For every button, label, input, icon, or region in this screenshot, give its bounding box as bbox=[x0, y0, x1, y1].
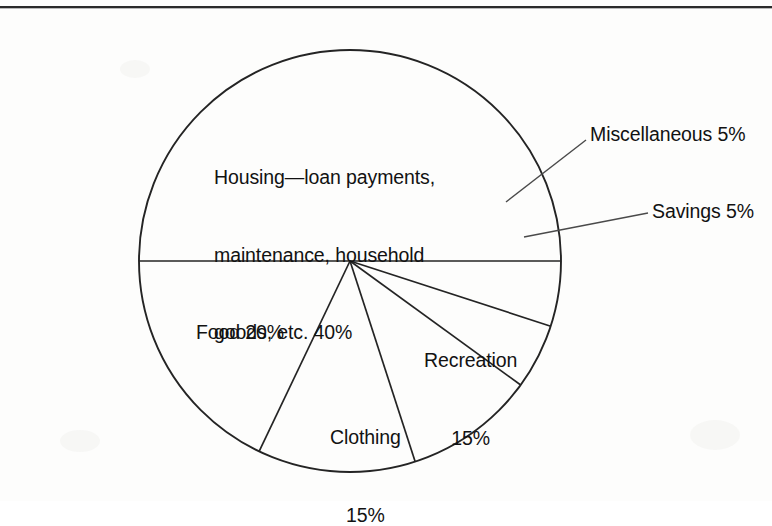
leader-line-miscellaneous bbox=[506, 140, 586, 202]
slice-label-miscellaneous: Miscellaneous 5% bbox=[590, 122, 746, 148]
recreation-label-line-1: Recreation bbox=[424, 348, 517, 374]
slice-label-food: Food 20% bbox=[196, 320, 284, 346]
slice-label-savings: Savings 5% bbox=[652, 199, 754, 225]
recreation-label-line-2: 15% bbox=[424, 426, 517, 452]
clothing-label-line-1: Clothing bbox=[330, 425, 401, 451]
housing-label-line-1: Housing—loan payments, bbox=[214, 165, 435, 191]
housing-label-line-2: maintenance, household bbox=[214, 243, 435, 269]
clothing-label-line-2: 15% bbox=[330, 503, 401, 526]
slice-label-recreation: Recreation 15% bbox=[424, 297, 517, 503]
leader-line-savings bbox=[524, 213, 648, 237]
slice-label-housing: Housing—loan payments, maintenance, hous… bbox=[214, 114, 435, 397]
slice-label-clothing: Clothing 15% bbox=[330, 374, 401, 526]
